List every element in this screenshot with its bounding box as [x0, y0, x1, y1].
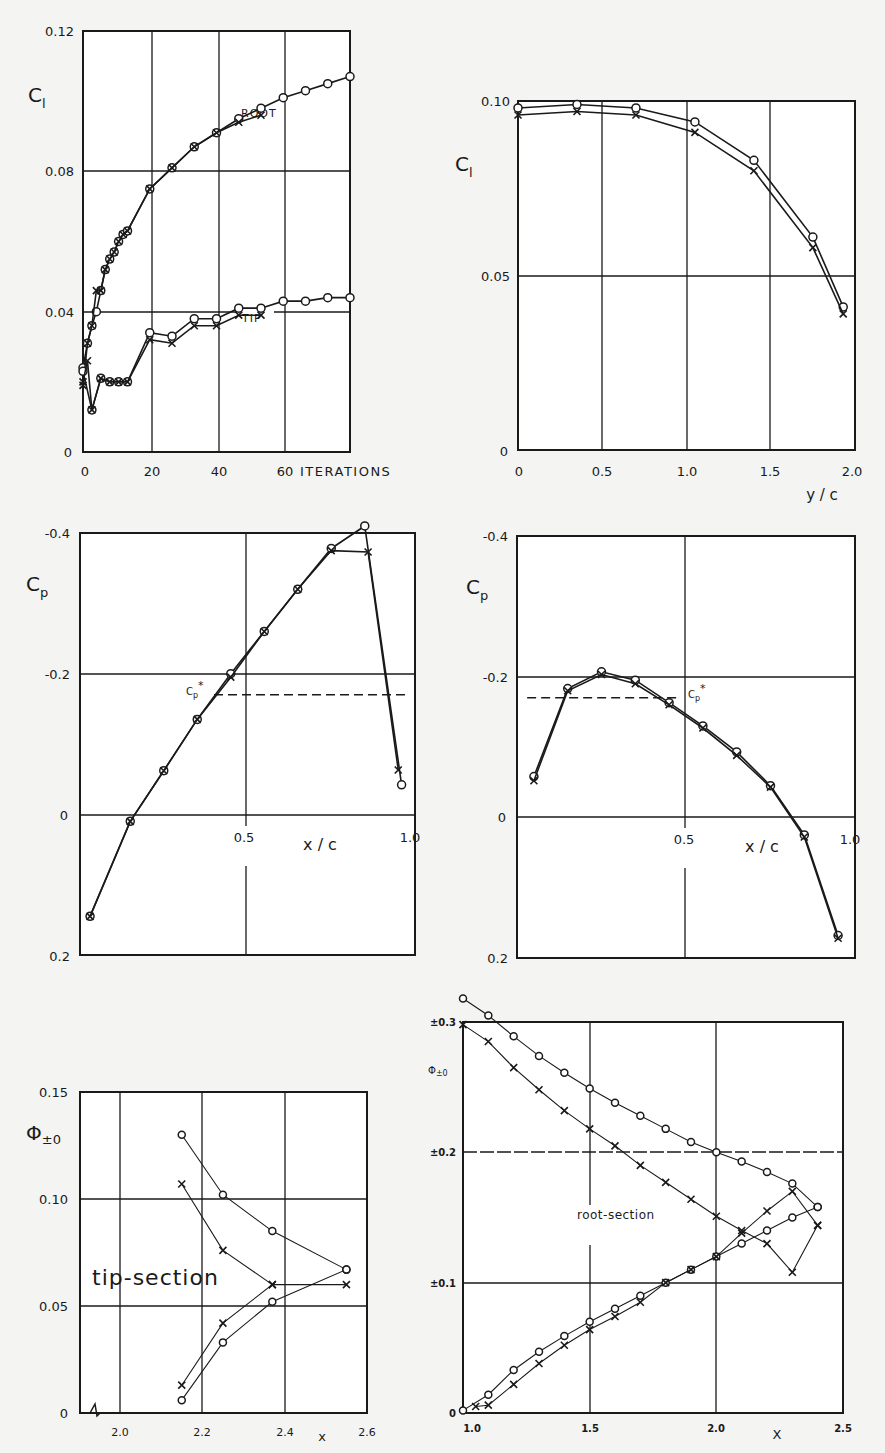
circle-marker-icon [637, 1292, 644, 1299]
circle-marker-icon [561, 1333, 568, 1340]
y-tick: 0.10 [481, 94, 510, 109]
y-tick: ±0.1 [430, 1278, 456, 1289]
x-tick: 1.0 [677, 464, 698, 479]
plot-frame [517, 536, 855, 958]
circle-marker-icon [814, 1204, 821, 1211]
x-tick: 2.6 [358, 1426, 376, 1439]
y-tick: ±0.3 [430, 1017, 456, 1028]
circle-marker-icon [612, 1305, 619, 1312]
circle-marker-icon [637, 1112, 644, 1119]
x-tick: 0.5 [234, 830, 255, 845]
y-tick: 0.05 [481, 269, 510, 284]
y-tick: 0 [500, 444, 508, 459]
circle-marker-icon [302, 297, 310, 305]
circle-marker-icon [586, 1085, 593, 1092]
circle-marker-icon [269, 1298, 276, 1305]
circle-marker-icon [398, 781, 406, 789]
chart-cp-tip: -0.4 -0.2 0 0.2 0.5 1.0 x / c Cp Cp* [466, 529, 860, 966]
y-tick: 0.2 [487, 951, 508, 966]
chart-cl-iterations: 0.12 0.08 0.04 0 0 20 40 60 ITERATIONS C… [28, 24, 391, 479]
y-axis-label: Φ±0 [428, 1065, 448, 1078]
x-tick: 0 [81, 464, 89, 479]
y-axis-label: Cl [455, 152, 473, 180]
figure-canvas: 0.12 0.08 0.04 0 0 20 40 60 ITERATIONS C… [0, 0, 885, 1453]
circle-marker-icon [460, 1407, 467, 1414]
x-tick: 0 [515, 464, 523, 479]
y-tick: 0.2 [49, 949, 70, 964]
y-tick: 0 [498, 810, 506, 825]
y-tick: 0.04 [45, 305, 74, 320]
x-tick: 60 [277, 464, 294, 479]
plot-frame [80, 533, 415, 955]
circle-marker-icon [324, 294, 332, 302]
circle-marker-icon [612, 1099, 619, 1106]
chart-cl-spanwise: 0.10 0.05 0 0 0.5 1.0 1.5 2.0 y / c Cl [455, 94, 862, 504]
x-tick: 2.4 [276, 1426, 294, 1439]
circle-marker-icon [460, 995, 467, 1002]
x-axis-label: y / c [806, 486, 838, 504]
circle-marker-icon [485, 1391, 492, 1398]
y-tick: -0.4 [45, 526, 70, 541]
y-tick: 0 [60, 808, 68, 823]
y-axis-label: Cl [28, 83, 46, 111]
circle-marker-icon [586, 1318, 593, 1325]
x-tick: 1.0 [463, 1423, 481, 1434]
x-axis-label: ITERATIONS [300, 464, 391, 479]
circle-marker-icon [279, 94, 287, 102]
y-tick: 0.15 [39, 1085, 68, 1100]
x-tick: 20 [144, 464, 161, 479]
x-tick: 2.5 [834, 1423, 852, 1434]
x-tick: 40 [211, 464, 228, 479]
circle-marker-icon [713, 1149, 720, 1156]
plot-frame [80, 1092, 367, 1413]
circle-marker-icon [750, 156, 758, 164]
y-tick: -0.2 [483, 670, 508, 685]
x-tick: 1.0 [840, 832, 861, 847]
annotation-tip-section: tip-section [92, 1265, 219, 1290]
circle-marker-icon [257, 104, 265, 112]
circle-marker-icon [789, 1180, 796, 1187]
circle-marker-icon [213, 315, 221, 323]
circle-marker-icon [809, 233, 817, 241]
circle-marker-icon [738, 1158, 745, 1165]
circle-marker-icon [219, 1191, 226, 1198]
circle-marker-icon [573, 100, 581, 108]
circle-marker-icon [662, 1125, 669, 1132]
circle-marker-icon [346, 294, 354, 302]
y-tick: 0.12 [45, 24, 74, 39]
circle-marker-icon [561, 1069, 568, 1076]
x-tick: 1.0 [400, 830, 421, 845]
circle-marker-icon [510, 1033, 517, 1040]
circle-marker-icon [536, 1348, 543, 1355]
x-tick: 1.5 [581, 1423, 599, 1434]
circle-marker-icon [789, 1214, 796, 1221]
circle-marker-icon [219, 1339, 226, 1346]
y-tick: -0.2 [45, 667, 70, 682]
y-tick: 0 [449, 1408, 456, 1419]
circle-marker-icon [146, 329, 154, 337]
circle-marker-icon [764, 1168, 771, 1175]
circle-marker-icon [343, 1266, 350, 1273]
chart-phi-root-section: ±0.3 ±0.2 ±0.1 0 1.0 1.5 2.0 2.5 X Φ±0 r… [428, 995, 852, 1442]
y-axis-label: Cp [26, 572, 48, 600]
circle-marker-icon [536, 1052, 543, 1059]
x-tick: 0.5 [674, 832, 695, 847]
circle-marker-icon [168, 332, 176, 340]
x-axis-label: x / c [745, 837, 779, 856]
x-tick: 2.0 [707, 1423, 725, 1434]
y-tick: 0.08 [45, 164, 74, 179]
circle-marker-icon [235, 304, 243, 312]
x-tick: 0.5 [592, 464, 613, 479]
y-tick: ±0.2 [430, 1147, 456, 1158]
circle-marker-icon [269, 1228, 276, 1235]
circle-marker-icon [688, 1138, 695, 1145]
y-tick: 0 [64, 445, 72, 460]
chart-phi-tip-section: 0.15 0.10 0.05 0 2.0 2.2 2.4 2.6 x Φ±0 t… [26, 1085, 376, 1444]
x-tick: 2.0 [842, 464, 863, 479]
circle-marker-icon [764, 1227, 771, 1234]
x-axis-label: x / c [303, 835, 337, 854]
x-axis-label: x [318, 1429, 326, 1444]
y-axis-label: Cp [466, 575, 488, 603]
annotation-root-section: root-section [577, 1208, 655, 1222]
x-tick: 2.0 [111, 1426, 129, 1439]
